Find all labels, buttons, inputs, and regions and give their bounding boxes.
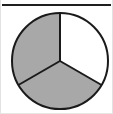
pie-chart: [0, 0, 113, 114]
figure-root: [0, 0, 113, 114]
